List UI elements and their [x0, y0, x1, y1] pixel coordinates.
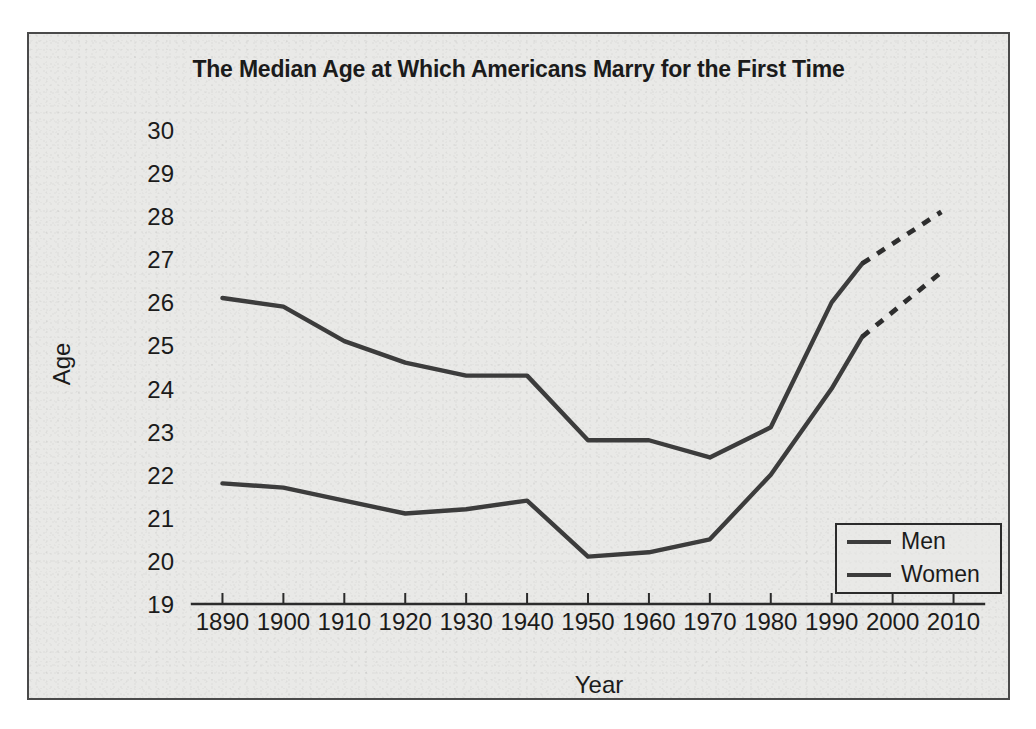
- series-line-men: [222, 264, 862, 458]
- legend-line-swatch-women: [847, 573, 891, 577]
- chart-legend: Men Women: [835, 523, 1002, 594]
- y-tick-label: 21: [147, 505, 174, 532]
- legend-item-men: Men: [837, 525, 1000, 558]
- y-axis-title: Age: [48, 343, 75, 386]
- figure-frame: The Median Age at Which Americans Marry …: [27, 32, 1010, 700]
- legend-label-men: Men: [901, 530, 946, 553]
- y-tick-label: 23: [147, 419, 174, 446]
- y-tick-label: 27: [147, 246, 174, 273]
- x-tick-label: 1920: [379, 608, 432, 635]
- data-series-group: [222, 212, 941, 557]
- x-tick-label: 1950: [561, 608, 614, 635]
- y-tick-label: 19: [147, 591, 174, 618]
- y-tick-label: 28: [147, 203, 174, 230]
- series-projection-women: [862, 272, 941, 337]
- x-tick-label: 1910: [318, 608, 371, 635]
- series-projection-men: [862, 212, 941, 264]
- x-tick-label: 1930: [439, 608, 492, 635]
- legend-item-women: Women: [837, 558, 1000, 591]
- legend-label-women: Women: [901, 563, 980, 586]
- series-line-women: [222, 337, 862, 557]
- x-tick-labels-group: 1890190019101920193019401950196019701980…: [196, 608, 980, 635]
- x-tick-label: 1990: [805, 608, 858, 635]
- x-tick-label: 2010: [927, 608, 980, 635]
- x-tick-label: 1900: [257, 608, 310, 635]
- y-tick-label: 29: [147, 160, 174, 187]
- x-tick-label: 1890: [196, 608, 249, 635]
- x-tick-label: 1970: [683, 608, 736, 635]
- x-tick-label: 2000: [866, 608, 919, 635]
- x-axis-title: Year: [575, 671, 624, 698]
- y-tick-label: 30: [147, 117, 174, 144]
- x-tick-label: 1960: [622, 608, 675, 635]
- line-chart-plot: 302928272625242322212019 189019001910192…: [29, 34, 1012, 702]
- tick-marks-group: [222, 593, 953, 604]
- y-tick-label: 20: [147, 548, 174, 575]
- y-tick-label: 22: [147, 462, 174, 489]
- legend-line-swatch-men: [847, 540, 891, 544]
- x-tick-label: 1980: [744, 608, 797, 635]
- y-tick-label: 25: [147, 332, 174, 359]
- y-tick-label: 24: [147, 376, 174, 403]
- y-tick-labels-group: 302928272625242322212019: [147, 117, 174, 618]
- y-tick-label: 26: [147, 289, 174, 316]
- x-tick-label: 1940: [500, 608, 553, 635]
